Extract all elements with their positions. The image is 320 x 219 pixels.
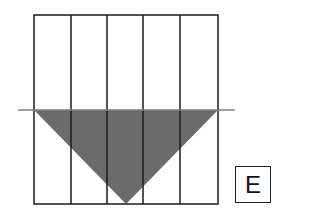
- option-label: E: [245, 171, 261, 199]
- option-label-box: E: [235, 166, 271, 203]
- gray-triangle: [34, 110, 218, 204]
